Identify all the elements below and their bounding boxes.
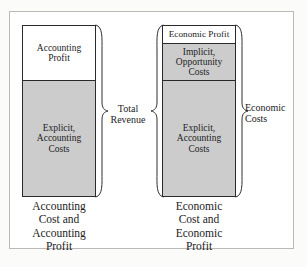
- label-line: Total: [118, 103, 138, 114]
- segment-label-line: Accounting: [177, 133, 221, 143]
- segment-label-line: Costs: [48, 144, 69, 154]
- label-line: Revenue: [111, 114, 146, 125]
- label-line: Economic: [245, 102, 286, 113]
- segment-label-line: Implicit,: [183, 47, 215, 57]
- segment-label-line: Costs: [188, 144, 209, 154]
- segment-label-line: Costs: [188, 67, 209, 77]
- caption-line: Economic: [154, 200, 244, 213]
- caption-accounting: Accounting Cost and Accounting Profit: [14, 200, 104, 253]
- caption-line: Cost and: [154, 213, 244, 226]
- segment-explicit-accounting-costs-left: Explicit, Accounting Costs: [23, 80, 95, 196]
- segment-label-line: Explicit,: [183, 123, 215, 133]
- segment-explicit-accounting-costs-right: Explicit, Accounting Costs: [163, 80, 235, 196]
- accounting-bar: Accounting Profit Explicit, Accounting C…: [22, 25, 96, 197]
- segment-label-line: Profit: [48, 53, 70, 63]
- segment-label-line: Accounting: [37, 133, 81, 143]
- caption-line: Profit: [154, 240, 244, 253]
- segment-label-line: Opportunity: [176, 57, 222, 67]
- caption-line: Accounting: [14, 200, 104, 213]
- economic-bar: Economic Profit Implicit, Opportunity Co…: [162, 25, 236, 197]
- label-total-revenue: Total Revenue: [104, 103, 152, 125]
- segment-label-line: Explicit,: [43, 123, 75, 133]
- label-economic-costs: Economic Costs: [245, 102, 303, 124]
- segment-implicit-opportunity-costs: Implicit, Opportunity Costs: [163, 43, 235, 80]
- caption-economic: Economic Cost and Economic Profit: [154, 200, 244, 253]
- caption-line: Cost and: [14, 213, 104, 226]
- figure-root: Accounting Profit Explicit, Accounting C…: [0, 0, 307, 267]
- segment-accounting-profit: Accounting Profit: [23, 26, 95, 80]
- segment-label-line: Accounting: [37, 43, 81, 53]
- caption-line: Accounting: [14, 227, 104, 240]
- label-line: Costs: [245, 113, 267, 124]
- segment-economic-profit: Economic Profit: [163, 26, 235, 43]
- brace-economic-total-revenue: [150, 24, 164, 198]
- segment-label-line: Economic Profit: [169, 30, 229, 40]
- caption-line: Economic: [154, 227, 244, 240]
- caption-line: Profit: [14, 240, 104, 253]
